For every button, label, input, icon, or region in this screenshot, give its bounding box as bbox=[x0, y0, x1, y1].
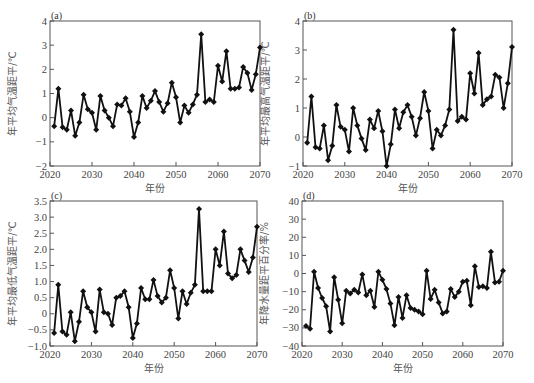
y-tick-label: 1.0 bbox=[34, 276, 47, 287]
data-point-marker bbox=[221, 229, 227, 235]
figure: 202020302040205020602070−2−101234(a)年份年平… bbox=[0, 0, 534, 383]
data-point-marker bbox=[331, 274, 337, 280]
data-line bbox=[306, 252, 503, 332]
data-point-marker bbox=[308, 93, 314, 99]
data-point-marker bbox=[76, 120, 82, 126]
data-point-marker bbox=[432, 287, 438, 293]
data-point-marker bbox=[375, 269, 381, 275]
data-point-marker bbox=[464, 278, 470, 284]
y-tick-label: 0.5 bbox=[34, 292, 47, 303]
data-point-marker bbox=[367, 117, 373, 123]
data-point-marker bbox=[327, 329, 333, 335]
data-point-marker bbox=[476, 50, 482, 56]
data-point-marker bbox=[500, 268, 506, 274]
data-point-marker bbox=[184, 301, 190, 307]
data-point-marker bbox=[68, 107, 74, 113]
data-line bbox=[307, 30, 512, 166]
y-tick-label: 0 bbox=[295, 132, 300, 143]
data-point-marker bbox=[371, 304, 377, 310]
y-tick-label: 10 bbox=[289, 250, 300, 261]
data-line bbox=[54, 209, 257, 341]
data-point-marker bbox=[126, 304, 132, 310]
x-tick-label: 2070 bbox=[250, 169, 271, 180]
data-point-marker bbox=[304, 140, 310, 146]
data-point-marker bbox=[446, 106, 452, 112]
data-point-marker bbox=[375, 108, 381, 114]
x-tick-label: 2040 bbox=[124, 169, 145, 180]
x-tick-label: 2030 bbox=[332, 349, 353, 360]
data-point-marker bbox=[315, 285, 321, 291]
data-point-marker bbox=[171, 285, 177, 291]
data-point-marker bbox=[80, 288, 86, 294]
data-point-marker bbox=[363, 147, 369, 153]
data-point-marker bbox=[379, 277, 385, 283]
data-point-marker bbox=[471, 91, 477, 97]
data-point-marker bbox=[323, 303, 329, 309]
y-tick-label: 4 bbox=[42, 16, 48, 27]
y-tick-label: −0.5 bbox=[28, 324, 47, 335]
data-point-marker bbox=[319, 295, 325, 301]
data-point-marker bbox=[151, 277, 157, 283]
x-tick-label: 2050 bbox=[418, 169, 439, 180]
x-tick-label: 2040 bbox=[122, 349, 143, 360]
data-point-marker bbox=[130, 335, 136, 341]
data-point-marker bbox=[501, 105, 507, 111]
plot-frame bbox=[302, 201, 503, 346]
data-point-marker bbox=[311, 269, 317, 275]
data-point-marker bbox=[509, 44, 515, 50]
data-point-marker bbox=[496, 279, 502, 285]
data-point-marker bbox=[223, 48, 229, 54]
y-tick-label: 0 bbox=[294, 268, 299, 279]
data-point-marker bbox=[194, 92, 200, 98]
data-point-marker bbox=[335, 297, 341, 303]
data-point-marker bbox=[359, 271, 365, 277]
y-tick-label: 0 bbox=[42, 308, 47, 319]
data-point-marker bbox=[93, 329, 99, 335]
y-tick-label: 3.5 bbox=[34, 196, 47, 207]
y-axis-title: 年降水量距平百分率/% bbox=[258, 222, 270, 325]
y-tick-label: 2 bbox=[42, 64, 47, 75]
data-point-marker bbox=[396, 125, 402, 131]
data-point-marker bbox=[97, 287, 103, 293]
data-point-marker bbox=[93, 127, 99, 133]
x-tick-label: 2050 bbox=[164, 349, 185, 360]
data-point-marker bbox=[472, 263, 478, 269]
y-tick-label: −1 bbox=[36, 136, 47, 147]
data-point-marker bbox=[55, 282, 61, 288]
data-point-marker bbox=[428, 296, 434, 302]
x-tick-label: 2060 bbox=[208, 169, 229, 180]
x-tick-label: 2050 bbox=[166, 169, 187, 180]
data-point-marker bbox=[391, 322, 397, 328]
data-point-marker bbox=[242, 258, 248, 264]
y-tick-label: 2.0 bbox=[34, 244, 47, 255]
data-point-marker bbox=[246, 269, 252, 275]
x-tick-label: 2030 bbox=[82, 169, 103, 180]
data-point-marker bbox=[127, 109, 133, 115]
data-point-marker bbox=[81, 92, 87, 98]
data-point-marker bbox=[413, 133, 419, 139]
panel-label: (c) bbox=[51, 190, 62, 202]
panel-d: 202020302040205020602070−40−30−20−100102… bbox=[258, 190, 514, 374]
data-point-marker bbox=[371, 125, 377, 131]
data-point-marker bbox=[250, 254, 256, 260]
data-point-marker bbox=[404, 292, 410, 298]
y-tick-label: −30 bbox=[283, 322, 299, 333]
data-point-marker bbox=[424, 268, 430, 274]
plot-frame bbox=[303, 21, 512, 166]
data-point-marker bbox=[249, 87, 255, 93]
y-axis-title: 年平均气温距平/℃ bbox=[6, 51, 18, 136]
y-tick-label: 4 bbox=[295, 16, 301, 27]
data-point-marker bbox=[208, 288, 214, 294]
y-axis-title: 年平均最低气温距平/℃ bbox=[6, 221, 18, 326]
x-axis-title: 年份 bbox=[144, 362, 164, 374]
panel-label: (d) bbox=[303, 190, 315, 202]
y-tick-label: 20 bbox=[289, 232, 300, 243]
data-point-marker bbox=[329, 143, 335, 149]
data-point-marker bbox=[468, 302, 474, 308]
x-tick-label: 2070 bbox=[493, 349, 514, 360]
x-tick-label: 2030 bbox=[334, 169, 355, 180]
data-point-marker bbox=[192, 282, 198, 288]
data-point-marker bbox=[321, 122, 327, 128]
data-point-marker bbox=[160, 109, 166, 115]
data-point-marker bbox=[237, 246, 243, 252]
